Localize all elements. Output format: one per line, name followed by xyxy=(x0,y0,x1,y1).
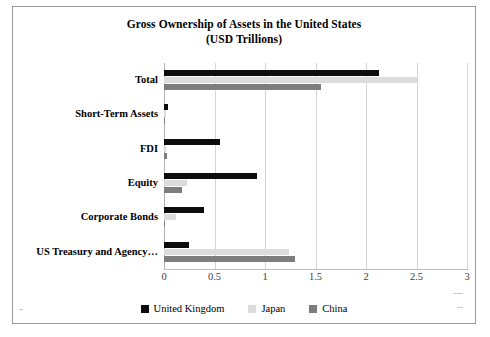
bar-japan xyxy=(164,146,166,152)
corner-artifact-right xyxy=(453,293,463,294)
category-row: US Treasury and Agency… xyxy=(164,235,468,269)
legend-label: China xyxy=(322,303,347,314)
bar-china xyxy=(164,221,165,227)
bar-united-kingdom xyxy=(164,139,220,145)
x-axis-line xyxy=(164,269,468,270)
chart-subtitle: (USD Trillions) xyxy=(13,32,475,47)
bar-china xyxy=(164,256,295,262)
bar-japan xyxy=(164,249,289,255)
category-row: Corporate Bonds xyxy=(164,200,468,234)
category-label: US Treasury and Agency… xyxy=(36,246,158,258)
legend-item-china[interactable]: China xyxy=(309,303,347,314)
bar-japan xyxy=(164,77,417,83)
category-row: Total xyxy=(164,63,468,97)
plot-area: TotalShort-Term AssetsFDIEquityCorporate… xyxy=(164,63,468,269)
bar-united-kingdom xyxy=(164,70,379,76)
bar-united-kingdom xyxy=(164,173,257,179)
bar-china xyxy=(164,118,165,124)
bar-united-kingdom xyxy=(164,207,204,213)
chart-title-line1: Gross Ownership of Assets in the United … xyxy=(127,18,362,30)
x-tick-label: 3 xyxy=(464,271,469,282)
bar-china xyxy=(164,153,167,159)
chart-legend: United KingdomJapanChina xyxy=(13,303,475,314)
legend-swatch-icon xyxy=(248,305,256,313)
bar-united-kingdom xyxy=(164,242,189,248)
chart-frame: Gross Ownership of Assets in the United … xyxy=(12,6,476,324)
x-tick-label: 0.5 xyxy=(208,271,221,282)
category-row: Short-Term Assets xyxy=(164,97,468,131)
category-row: FDI xyxy=(164,132,468,166)
legend-label: Japan xyxy=(261,303,285,314)
corner-artifact-left xyxy=(19,309,23,310)
category-label: Corporate Bonds xyxy=(81,211,158,223)
bar-united-kingdom xyxy=(164,104,168,110)
legend-swatch-icon xyxy=(309,305,317,313)
bar-japan xyxy=(164,214,176,220)
legend-swatch-icon xyxy=(141,305,149,313)
bar-china xyxy=(164,187,182,193)
legend-label: United Kingdom xyxy=(154,303,225,314)
x-tick-label: 1.5 xyxy=(309,271,322,282)
legend-item-japan[interactable]: Japan xyxy=(248,303,285,314)
category-row: Equity xyxy=(164,166,468,200)
category-label: Short-Term Assets xyxy=(75,108,158,120)
category-label: FDI xyxy=(140,143,158,155)
bar-japan xyxy=(164,111,166,117)
x-tick-label: 2.5 xyxy=(410,271,423,282)
chart-title: Gross Ownership of Assets in the United … xyxy=(13,17,475,47)
category-label: Total xyxy=(135,74,158,86)
legend-item-united-kingdom[interactable]: United Kingdom xyxy=(141,303,225,314)
bar-china xyxy=(164,84,321,90)
corner-artifact-right-2 xyxy=(457,307,463,308)
x-tick-label: 1 xyxy=(262,271,267,282)
x-tick-label: 0 xyxy=(161,271,166,282)
x-tick-label: 2 xyxy=(363,271,368,282)
bar-japan xyxy=(164,180,187,186)
category-label: Equity xyxy=(128,177,158,189)
